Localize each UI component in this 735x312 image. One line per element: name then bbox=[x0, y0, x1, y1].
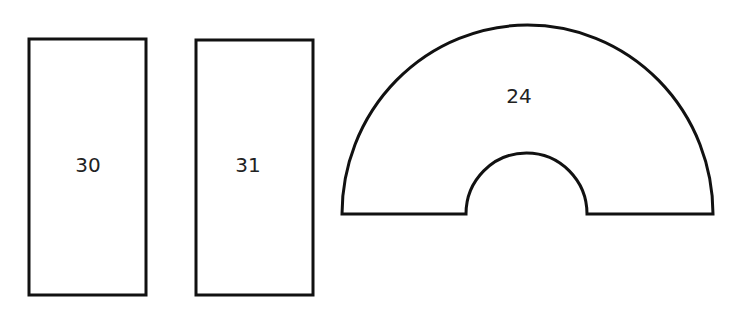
shape-arch-24: 24 bbox=[342, 25, 713, 214]
shape-label: 24 bbox=[506, 84, 531, 108]
shape-rectangle-31: 31 bbox=[196, 40, 313, 295]
shape-rectangle-30: 30 bbox=[29, 39, 146, 295]
shape-label: 31 bbox=[235, 153, 260, 177]
diagram-canvas: 30 31 24 bbox=[0, 0, 735, 312]
shape-label: 30 bbox=[75, 153, 100, 177]
